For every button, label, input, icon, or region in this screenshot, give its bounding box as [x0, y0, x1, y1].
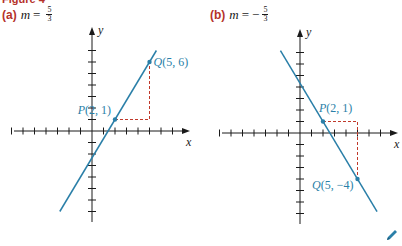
chart-a-x-axis-arrow: [182, 128, 190, 134]
chart-a-point-label-p: P(2, 1): [77, 103, 111, 117]
chart-a-y-axis-label: y: [97, 23, 104, 37]
point-name: Q: [154, 55, 163, 69]
point-coords: (5, 6): [162, 55, 188, 69]
chart-a-point-label-q: Q(5, 6): [154, 55, 189, 69]
chart-a-point-p: [113, 117, 117, 121]
chart-a-y-axis-arrow: [89, 27, 95, 35]
point-name: Q: [312, 178, 321, 192]
chart-a-x-axis-label: x: [185, 135, 192, 149]
pencil-icon[interactable]: [385, 228, 399, 242]
chart-b-x-axis-label: x: [393, 137, 400, 151]
point-coords: (2, 1): [326, 101, 352, 115]
chart-b-y-axis-label: y: [305, 25, 312, 39]
chart-b-point-q: [355, 177, 359, 181]
chart-b-point-label-p: P(2, 1): [318, 101, 352, 115]
chart-b-point-p: [321, 119, 325, 123]
chart-b-x-axis-arrow: [390, 130, 398, 136]
chart-a-point-q: [147, 60, 151, 64]
point-coords: (2, 1): [85, 103, 111, 117]
chart-b-y-axis-arrow: [297, 29, 303, 37]
figure-charts: xyP(2, 1)Q(5, 6)xyP(2, 1)Q(5, −4): [0, 0, 402, 246]
chart-b-point-label-q: Q(5, −4): [312, 178, 353, 192]
point-coords: (5, −4): [321, 178, 354, 192]
